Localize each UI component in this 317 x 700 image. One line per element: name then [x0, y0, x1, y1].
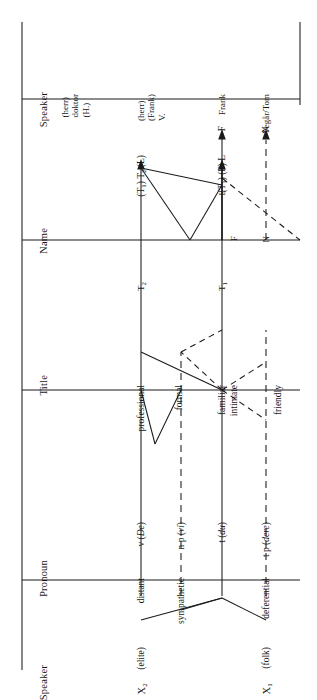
- title-junction-to-intimate: [181, 352, 222, 390]
- column-header-speaker: Speaker: [38, 665, 50, 700]
- terminal-label-f: F: [217, 126, 228, 131]
- node-label-n: N: [261, 236, 271, 243]
- title-label-formal: formal: [174, 385, 185, 410]
- name-t2-to-l: [141, 168, 222, 185]
- column-header-title: Title: [38, 375, 50, 395]
- pronoun-form-tp-dere: t p (dere): [261, 522, 272, 557]
- title-label-friendly: friendly: [273, 385, 284, 415]
- terminal-label-t2: (T1) T2 (L): [136, 155, 149, 197]
- pronoun-form-t-du: t (du): [217, 522, 228, 543]
- column-header-pronoun: Pronoun: [38, 560, 50, 597]
- pronoun-form-np-vi: n p (vi): [176, 522, 187, 549]
- pronoun-relation-sympathetic: sympathetic: [176, 578, 187, 624]
- speaker-paren-elite: (elite): [136, 647, 147, 670]
- title-label-familiar: familiar: [217, 385, 228, 415]
- pronoun-relation-deferential: deferential: [261, 578, 272, 619]
- example-f: Frank: [217, 94, 227, 115]
- pronoun-relation-distant: distant: [136, 578, 147, 603]
- node-label-f: F: [229, 236, 239, 241]
- title-intimate-apex-to-t1: [181, 330, 222, 352]
- name-l-to-f: [222, 178, 300, 240]
- node-label-t2: T2: [136, 282, 149, 291]
- speaker-x1-to-junction: [222, 598, 266, 620]
- title-label-intimate: intimate: [229, 385, 240, 416]
- example-t1: (herr)(Frank)V.: [136, 94, 167, 121]
- column-header-name: Name: [38, 228, 50, 254]
- node-label-t1: T1: [217, 282, 230, 291]
- speaker-node-x1: X1: [261, 683, 275, 695]
- speaker-junction-to-np: [181, 598, 222, 610]
- title-label-professional: professional: [136, 385, 147, 431]
- pronoun-form-v-de: v (De): [136, 522, 147, 547]
- column-header-examples: Speaker: [38, 92, 50, 127]
- terminal-label-n: N: [261, 126, 272, 133]
- node-label-l: L: [217, 190, 227, 196]
- terminal-label-t1: (T1) (F) L: [217, 155, 230, 193]
- speaker-node-x2: X2: [136, 683, 150, 695]
- example-t2: (herr)doktor(H.): [60, 94, 91, 118]
- speaker-paren-folk: (folk): [261, 647, 272, 669]
